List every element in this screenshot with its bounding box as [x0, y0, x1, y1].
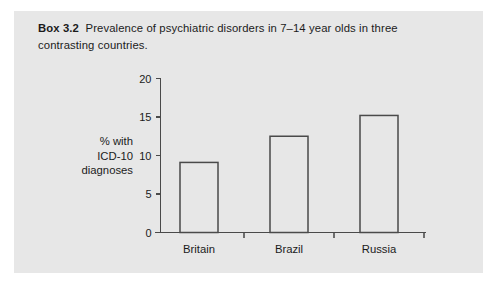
bar-britain — [180, 162, 218, 232]
y-axis: 05101520 — [139, 73, 160, 239]
figure-root: Box 3.2 Prevalence of psychiatric disord… — [0, 0, 502, 288]
y-axis-title-line: diagnoses — [81, 164, 133, 176]
bar-series — [180, 115, 398, 232]
x-axis-label-brazil: Brazil — [275, 243, 303, 255]
bar-russia — [360, 115, 398, 232]
y-axis-tick-label: 5 — [145, 188, 151, 200]
bar-brazil — [270, 136, 308, 232]
bar-chart: 05101520 % withICD-10diagnoses BritainBr… — [0, 0, 502, 288]
x-axis-label-britain: Britain — [183, 243, 215, 255]
y-axis-tick-label: 20 — [139, 73, 151, 85]
y-axis-title: % withICD-10diagnoses — [81, 135, 133, 176]
y-axis-tick-label: 15 — [139, 111, 151, 123]
y-axis-tick-label: 0 — [145, 227, 151, 239]
y-axis-title-line: % with — [100, 135, 133, 147]
x-axis-tick-labels: BritainBrazilRussia — [183, 243, 397, 255]
y-axis-title-line: ICD-10 — [97, 150, 133, 162]
y-axis-tick-label: 10 — [139, 150, 151, 162]
x-axis-label-russia: Russia — [362, 243, 397, 255]
